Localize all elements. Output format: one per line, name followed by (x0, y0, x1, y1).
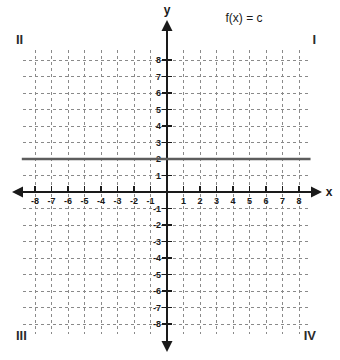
x-tick-label: -5 (80, 196, 88, 206)
graph-canvas: -8-7-6-5-4-3-2-11234567887654321-1-2-3-4… (0, 0, 340, 360)
quadrant-label-ii: II (16, 32, 23, 47)
y-axis-label: y (164, 3, 171, 17)
y-tick-label: 4 (156, 121, 161, 131)
y-tick-label: 8 (156, 55, 161, 65)
x-axis-label: x (326, 185, 333, 199)
y-tick-label: -4 (153, 253, 161, 263)
y-tick-label: -5 (153, 270, 161, 280)
y-tick-label: 6 (156, 88, 161, 98)
quadrant-label-i: I (312, 32, 316, 47)
y-tick-label: -2 (153, 220, 161, 230)
x-tick-label: 2 (197, 196, 202, 206)
x-tick-label: -2 (130, 196, 138, 206)
y-tick-label: -1 (153, 204, 161, 214)
y-tick-label: 7 (156, 72, 161, 82)
x-tick-label: -8 (31, 196, 39, 206)
x-tick-label: -3 (113, 196, 121, 206)
quadrant-label-iii: III (16, 328, 27, 343)
y-tick-label: -6 (153, 286, 161, 296)
x-tick-label: -7 (47, 196, 55, 206)
x-tick-label: 5 (247, 196, 252, 206)
x-tick-label: 3 (214, 196, 219, 206)
quadrant-label-iv: IV (304, 328, 317, 343)
x-tick-label: -4 (97, 196, 105, 206)
x-tick-label: 6 (263, 196, 268, 206)
y-tick-label: 1 (156, 171, 161, 181)
x-axis-arrow-left (12, 187, 23, 198)
y-tick-label: -8 (153, 319, 161, 329)
x-tick-label: -6 (64, 196, 72, 206)
coordinate-plane-figure: -8-7-6-5-4-3-2-11234567887654321-1-2-3-4… (0, 0, 340, 360)
axes (12, 20, 322, 352)
x-tick-label: 4 (230, 196, 235, 206)
y-tick-label: 3 (156, 138, 161, 148)
x-axis-arrow-right (311, 187, 322, 198)
y-tick-label: 5 (156, 105, 161, 115)
x-tick-label: 8 (296, 196, 301, 206)
x-tick-label: 1 (181, 196, 186, 206)
y-tick-label: -3 (153, 237, 161, 247)
y-axis-arrow-down (162, 341, 173, 352)
y-axis-arrow-up (162, 20, 173, 31)
y-tick-label: -7 (153, 303, 161, 313)
x-tick-label: 7 (280, 196, 285, 206)
function-equation-title: f(x) = c (225, 11, 262, 25)
